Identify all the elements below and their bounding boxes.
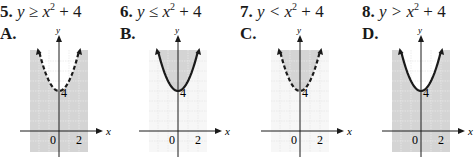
x-axis-arrow-icon [458,128,465,134]
x-axis-label: x [105,125,111,137]
vertex-label: 4 [180,86,186,100]
y-axis-label: y [55,25,60,35]
x-tick-label: 0 [412,133,418,147]
x-tick-label: 2 [317,133,323,147]
y-axis-arrow-icon [175,35,181,42]
x-axis-arrow-icon [337,128,344,134]
y-axis-arrow-icon [297,35,303,42]
x-axis-label: x [224,125,230,137]
x-axis-label: x [346,125,352,137]
vertex-label: 4 [423,86,429,100]
x-tick-label: 0 [291,133,297,147]
x-axis-arrow-icon [96,128,103,134]
vertex-label: 4 [302,86,308,100]
x-tick-label: 0 [50,133,56,147]
x-tick-label: 0 [169,133,175,147]
y-axis-arrow-icon [56,35,62,42]
graphs-layer: 4xy024xy024xy024xy02 [0,0,475,157]
y-axis-label: y [417,25,422,35]
x-axis-arrow-icon [215,128,222,134]
y-axis-arrow-icon [418,35,424,42]
x-tick-label: 2 [438,133,444,147]
x-tick-label: 2 [76,133,82,147]
vertex-label: 4 [61,86,67,100]
y-axis-label: y [296,25,301,35]
x-axis-label: x [467,125,473,137]
x-tick-label: 2 [195,133,201,147]
y-axis-label: y [174,25,179,35]
